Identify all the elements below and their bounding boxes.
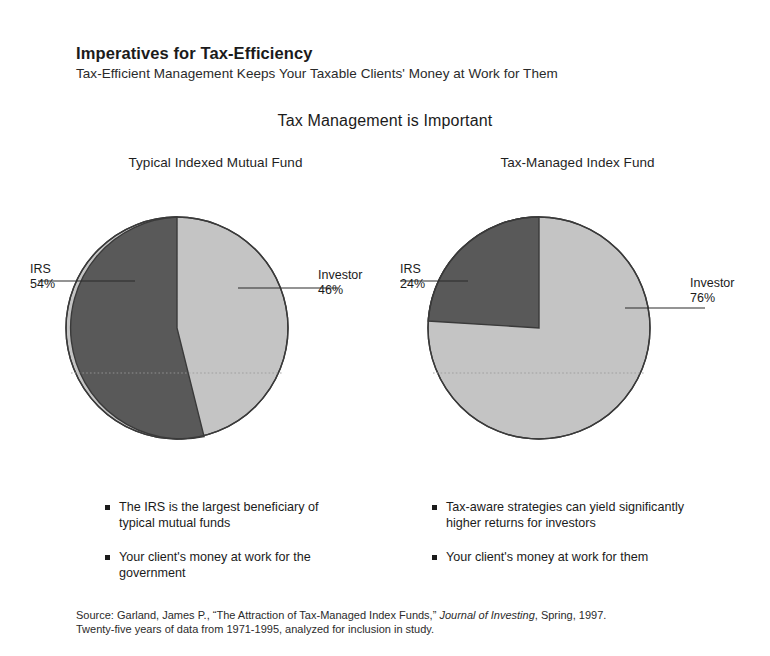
callout-right-irs-value: 24% [400,277,425,292]
square-bullet-icon [432,555,437,560]
callout-left-irs-name: IRS [30,262,51,276]
source-line-1: Source: Garland, James P., “The Attracti… [76,608,736,622]
callout-right-irs: IRS 24% [400,262,425,292]
page-title: Imperatives for Tax-Efficiency [76,44,313,63]
callout-left-investor-value: 46% [318,283,362,298]
square-bullet-icon [432,505,437,510]
bullet-list-right: Tax-aware strategies can yield significa… [432,500,692,566]
list-item: Tax-aware strategies can yield significa… [432,500,692,531]
callout-right-investor: Investor 76% [690,276,734,306]
pie-left-svg [38,195,393,475]
source-line-2: Twenty-five years of data from 1971-1995… [76,622,736,636]
list-item: Your client's money at work for the gove… [105,550,355,581]
callout-right-investor-name: Investor [690,276,734,290]
slide-canvas: Imperatives for Tax-Efficiency Tax-Effic… [0,0,770,656]
source-line-1-part-2: , Spring, 1997. [535,609,607,621]
list-item: Your client's money at work for them [432,550,692,566]
square-bullet-icon [105,555,110,560]
bullet-text: Tax-aware strategies can yield significa… [446,500,692,531]
callout-left-irs-value: 54% [30,277,55,292]
panel-title-right: Tax-Managed Index Fund [400,155,755,170]
callout-left-investor: Investor 46% [318,268,362,298]
pie-chart-right [400,195,755,475]
bullet-text: Your client's money at work for the gove… [119,550,355,581]
chart-title: Tax Management is Important [0,112,770,130]
callout-left-irs: IRS 54% [30,262,55,292]
page-subtitle: Tax-Efficient Management Keeps Your Taxa… [76,66,558,81]
source-note: Source: Garland, James P., “The Attracti… [76,608,736,636]
bullet-text: The IRS is the largest beneficiary of ty… [119,500,355,531]
callout-right-investor-value: 76% [690,291,734,306]
source-journal-name: Journal of Investing [439,609,534,621]
square-bullet-icon [105,505,110,510]
pie-chart-left [38,195,393,475]
pie-right-svg [400,195,755,475]
pie-right-slice-irs [428,217,539,328]
list-item: The IRS is the largest beneficiary of ty… [105,500,355,531]
callout-left-investor-name: Investor [318,268,362,282]
bullet-text: Your client's money at work for them [446,550,692,566]
callout-right-irs-name: IRS [400,262,421,276]
bullet-list-left: The IRS is the largest beneficiary of ty… [105,500,355,581]
source-line-1-part-1: Source: Garland, James P., “The Attracti… [76,609,439,621]
panel-title-left: Typical Indexed Mutual Fund [38,155,393,170]
